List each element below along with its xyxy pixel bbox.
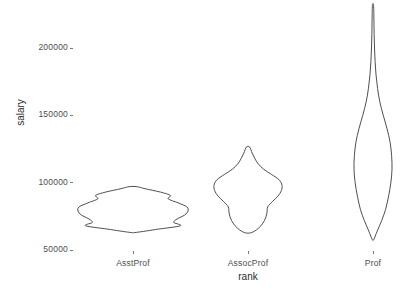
violin-asstprof [78,186,188,232]
x-axis-title: rank [188,271,308,282]
x-axis-tick-mark [133,251,134,254]
x-axis-category-label-asstprof: AsstProf [83,258,183,268]
x-axis-category-label-prof: Prof [323,258,406,268]
violin-assocprof [214,146,282,233]
x-axis-tick-mark [248,251,249,254]
x-axis-tick-mark [373,251,374,254]
violin-shapes-layer [0,0,406,289]
violin-plot: salary 50000100000150000200000 AsstProfA… [0,0,406,289]
x-axis-category-label-assocprof: AssocProf [198,258,298,268]
violin-prof [354,4,392,241]
